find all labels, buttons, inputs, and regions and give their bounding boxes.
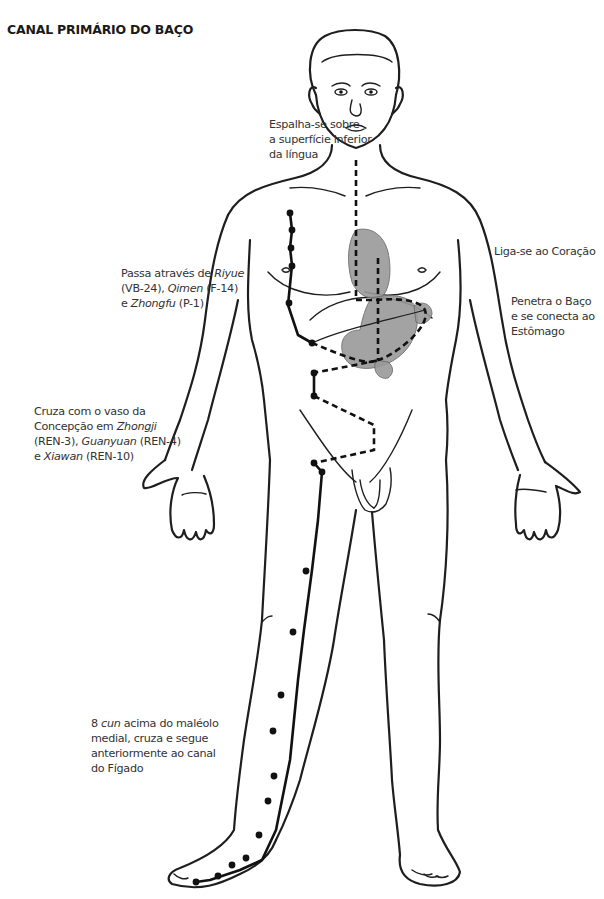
acupoint — [311, 370, 318, 377]
acupoint — [290, 629, 297, 636]
label-line: e Zhongfu (P-1) — [121, 296, 244, 311]
label-liver-crossing: 8 cun acima do maléolo medial, cruza e s… — [91, 716, 218, 776]
label-line: e Xiawan (REN-10) — [34, 449, 181, 464]
label-chest-points: Passa através de Riyue (VB-24), Qimen (F… — [121, 266, 244, 311]
label-line: Estômago — [511, 324, 595, 339]
legs-outline — [169, 460, 460, 887]
right-hand — [515, 462, 580, 539]
point-name: Zhongfu — [131, 297, 176, 310]
acupoint — [270, 728, 277, 735]
label-line: da língua — [269, 147, 372, 162]
acupoint — [256, 832, 263, 839]
acupoint — [319, 469, 326, 476]
unit-term: cun — [101, 717, 120, 730]
acupoint — [303, 568, 310, 575]
label-line: Concepção em Zhongji — [34, 419, 181, 434]
text: (REN-10) — [83, 450, 134, 463]
acupoint — [229, 862, 236, 869]
label-line: Passa através de Riyue — [121, 266, 244, 281]
text: e — [34, 450, 44, 463]
text: 8 — [91, 717, 101, 730]
acupoint — [289, 227, 296, 234]
point-name: Qimen — [168, 282, 203, 295]
acupoint-zhongfu — [287, 210, 294, 217]
label-spleen-stomach: Penetra o Baço e se conecta ao Estômago — [511, 294, 595, 339]
label-line: 8 cun acima do maléolo — [91, 716, 218, 731]
acupoint — [243, 855, 250, 862]
label-heart: Liga-se ao Coração — [494, 244, 595, 259]
label-line: Penetra o Baço — [511, 294, 595, 309]
text: (VB-24), — [121, 282, 168, 295]
point-name: Riyue — [214, 267, 244, 280]
text: (P-1) — [176, 297, 204, 310]
point-name: Zhongji — [117, 420, 157, 433]
label-line: a superfície inferior — [269, 132, 372, 147]
acupoint — [286, 300, 293, 307]
acupoint — [311, 460, 318, 467]
label-line: anteriormente ao canal — [91, 746, 218, 761]
left-hand — [143, 460, 214, 539]
text: (REN-4) — [136, 435, 180, 448]
acupoint — [271, 773, 278, 780]
label-line: e se conecta ao — [511, 309, 595, 324]
label-line: Cruza com o vaso da — [34, 404, 181, 419]
point-name: Guanyuan — [82, 435, 137, 448]
text: e — [121, 297, 131, 310]
label-line: (VB-24), Qimen (F-14) — [121, 281, 244, 296]
point-name: Xiawan — [44, 450, 83, 463]
label-line: Liga-se ao Coração — [494, 244, 595, 259]
text: Concepção em — [34, 420, 117, 433]
external-pathway — [196, 213, 322, 882]
acupoint — [215, 873, 222, 880]
text: (REN-3), — [34, 435, 82, 448]
acupoint — [289, 263, 296, 270]
label-line: medial, cruza e segue — [91, 731, 218, 746]
acupoint — [309, 340, 316, 347]
label-line: (REN-3), Guanyuan (REN-4) — [34, 434, 181, 449]
acupoint — [288, 245, 295, 252]
acupoint — [265, 798, 272, 805]
label-conception-vessel: Cruza com o vaso da Concepção em Zhongji… — [34, 404, 181, 464]
label-line: Espalha-se sobre — [269, 117, 372, 132]
spleen-organ — [414, 303, 432, 323]
text: (F-14) — [203, 282, 238, 295]
text: Passa através de — [121, 267, 214, 280]
label-tongue: Espalha-se sobre a superfície inferior d… — [269, 117, 372, 162]
acupoint — [311, 393, 318, 400]
label-line: do Fígado — [91, 761, 218, 776]
acupoint — [278, 692, 285, 699]
pelvis-outline — [352, 468, 391, 512]
acupoint — [193, 879, 200, 886]
text: acima do maléolo — [121, 717, 219, 730]
